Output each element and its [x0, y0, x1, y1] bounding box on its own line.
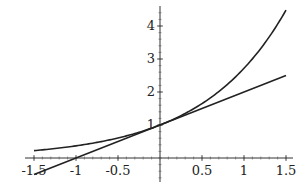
- x-tick-label: -0.5: [105, 163, 130, 178]
- chart: -1.5-1-0.50.511.5 1234: [0, 0, 307, 185]
- x-tick-label: 1: [240, 163, 248, 178]
- x-tick-label: -1: [70, 163, 83, 178]
- y-tick-label: 2: [147, 84, 155, 99]
- y-tick-label: 4: [147, 18, 155, 33]
- x-tick-label: 0.5: [192, 163, 213, 178]
- y-tick-label: 3: [147, 51, 155, 66]
- y-ticks: 1234: [147, 13, 163, 178]
- axes: -1.5-1-0.50.511.5 1234: [21, 6, 296, 182]
- x-tick-label: 1.5: [276, 163, 297, 178]
